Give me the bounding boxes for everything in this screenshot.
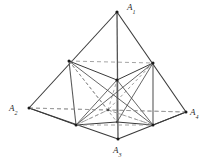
link-A2-to-box-botleft [29, 108, 76, 125]
vertex-dot-A1 [115, 10, 118, 13]
outer-tetrahedron [29, 12, 186, 139]
vertex-dot-A4 [185, 111, 188, 114]
vertex-label-A2-base: A [9, 103, 15, 113]
vertex-label-A1-base: A [127, 2, 133, 12]
vertex-label-A3-subscript: 3 [119, 152, 122, 158]
vertex-dot-box-center [115, 78, 118, 81]
geometry-canvas [0, 0, 215, 167]
vertex-label-A3: A3 [113, 146, 122, 157]
box-top-back-edge [69, 61, 153, 63]
vertex-label-A3-base: A [113, 145, 119, 155]
vertex-label-A1-subscript: 1 [133, 9, 136, 15]
vertex-dot-box-back [107, 109, 110, 112]
vertex-label-A1: A1 [127, 3, 136, 14]
vertex-label-A2: A2 [9, 104, 18, 115]
diagonal-topleft-to-botright [69, 61, 153, 125]
vertex-dot-A2 [28, 107, 31, 110]
vertex-label-A2-subscript: 2 [15, 110, 18, 116]
vertex-dot-box-top-left [68, 60, 71, 63]
link-A4-to-box-back-hidden [108, 110, 186, 112]
vertex-label-A4-subscript: 4 [196, 114, 199, 120]
vertex-dot-box-bot-mid [116, 121, 118, 123]
vertex-dot-box-top-right [152, 62, 155, 65]
vertex-dot-box-bot-left [75, 124, 78, 127]
box-pillar-left [69, 61, 76, 125]
diagonal-center-to-botright [117, 80, 153, 125]
vertex-label-A4: A4 [190, 108, 199, 119]
vertex-label-A4-base: A [190, 107, 196, 117]
internal-diagonals [69, 61, 153, 125]
vertex-dot-A3 [117, 138, 120, 141]
vertex-dot-box-bot-right [152, 124, 155, 127]
geometry-figure: A1 A2 A3 A4 [0, 0, 215, 167]
link-A4-to-box-botright [153, 112, 186, 125]
diagonal-center-to-botleft [76, 80, 117, 125]
